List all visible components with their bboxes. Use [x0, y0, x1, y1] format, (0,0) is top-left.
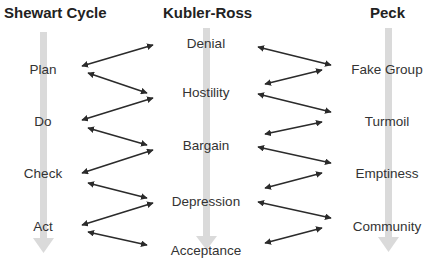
link-check-depression: [88, 183, 147, 198]
link-do-hostility: [82, 98, 153, 120]
stage-plan: Plan: [29, 62, 56, 77]
link-denial-fakegroup: [258, 47, 331, 65]
left-link-arrows: [82, 45, 153, 245]
stage-act: Act: [33, 219, 53, 234]
link-plan-denial: [82, 45, 153, 66]
stage-acceptance: Acceptance: [171, 243, 242, 258]
stage-depression: Depression: [172, 194, 240, 209]
link-hostility-fakegroup: [265, 70, 322, 84]
link-act-depression: [82, 203, 153, 225]
link-act-acceptance: [88, 232, 147, 245]
kubler-ross-title: Kubler-Ross: [163, 4, 252, 21]
link-bargain-emptiness: [258, 147, 331, 163]
link-check-bargain: [82, 150, 153, 173]
stage-community: Community: [353, 219, 421, 234]
link-do-bargain: [88, 128, 147, 145]
shewart-cycle-title: Shewart Cycle: [4, 4, 107, 21]
link-depression-emptiness: [265, 173, 322, 188]
peck-title: Peck: [370, 4, 405, 21]
stage-check: Check: [24, 166, 62, 181]
stage-hostility: Hostility: [182, 85, 229, 100]
stage-emptiness: Emptiness: [355, 166, 418, 181]
stage-denial: Denial: [187, 36, 225, 51]
link-bargain-turmoil: [265, 122, 322, 134]
stage-turmoil: Turmoil: [365, 114, 410, 129]
link-acceptance-community: [265, 228, 322, 243]
link-plan-hostility: [88, 73, 147, 93]
stage-fake-group: Fake Group: [351, 62, 422, 77]
stage-do: Do: [34, 114, 51, 129]
link-hostility-turmoil: [258, 94, 331, 112]
link-depression-community: [258, 202, 331, 218]
right-link-arrows: [258, 47, 331, 243]
stage-bargain: Bargain: [183, 138, 230, 153]
